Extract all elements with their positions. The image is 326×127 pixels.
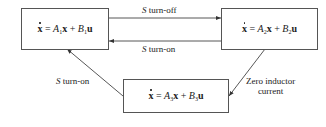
state-box-1: x = A1x + B1u xyxy=(21,8,109,50)
arrow-turn-on-left xyxy=(67,49,123,96)
state-equation-2: x = A2x + B2u xyxy=(242,23,297,35)
label-zero-inductor-current: Zero inductor current xyxy=(246,76,295,96)
label-turn-off: S turn-off xyxy=(142,5,177,15)
state-equation-3: x = A3x + B3u xyxy=(148,90,203,102)
state-transition-diagram: x = A1x + B1u x = A2x + B2u x = A3x + B3… xyxy=(0,0,326,127)
state-box-2: x = A2x + B2u xyxy=(221,8,318,50)
state-equation-1: x = A1x + B1u xyxy=(37,23,92,35)
label-turn-on-left: S turn-on xyxy=(56,76,89,86)
state-box-3: x = A3x + B3u xyxy=(123,79,229,113)
label-turn-on-top: S turn-on xyxy=(142,44,175,54)
